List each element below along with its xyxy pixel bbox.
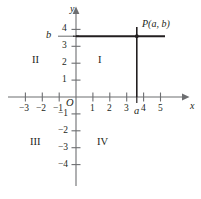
quadrant-label-ii: II: [32, 55, 39, 66]
x-tick-label-3: 3: [124, 104, 129, 114]
y-tick-label-3: 3: [62, 41, 67, 51]
x-tick-label-neg3: −3: [19, 104, 29, 114]
x-tick-label-4: 4: [141, 104, 146, 114]
y-tick-label-neg3: −3: [58, 143, 68, 153]
x-axis: [8, 94, 190, 101]
x-tick-label-5: 5: [158, 104, 163, 114]
x-tick-label-1: 1: [90, 104, 95, 114]
x-axis-label: x: [190, 101, 194, 111]
x-tick-label-2: 2: [107, 104, 112, 114]
coordinate-plane-figure: −3 −2 −1 1 2 3 4 5 4 3 2 1 −1 −2 −3 −4 y…: [0, 0, 201, 199]
coordinate-plane-svg: [0, 0, 201, 199]
y-tick-label-neg4: −4: [58, 160, 68, 170]
quadrant-label-iii: III: [30, 137, 41, 148]
point-y-coord-label: b: [46, 30, 51, 41]
y-tick-label-neg2: −2: [58, 126, 68, 136]
y-tick-label-neg1: −1: [58, 109, 68, 119]
point-p-label: P(a, b): [142, 19, 170, 29]
y-tick-label-4: 4: [62, 24, 67, 34]
quadrant-label-iv: IV: [97, 137, 108, 148]
y-tick-label-2: 2: [62, 58, 67, 68]
x-axis-arrow: [182, 94, 190, 101]
y-tick-label-1: 1: [62, 75, 67, 85]
x-tick-label-neg2: −2: [36, 104, 46, 114]
point-p-marker: [135, 34, 139, 38]
y-axis-label: y: [70, 4, 74, 14]
origin-label: O: [66, 98, 74, 109]
point-x-coord-label: a: [134, 106, 139, 117]
quadrant-label-i: I: [98, 55, 102, 66]
